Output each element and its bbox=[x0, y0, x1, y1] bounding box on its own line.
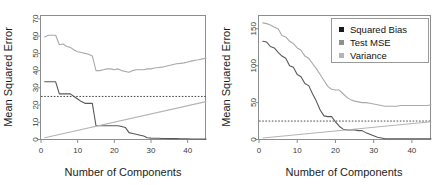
right-yaxis-title: Mean Squared Error bbox=[220, 27, 232, 127]
chart-panel-left: 010203040 010203040506070 Number of Comp… bbox=[0, 0, 218, 185]
series-line-test-mse bbox=[45, 35, 206, 72]
y-tick-label: 70 bbox=[31, 14, 40, 23]
y-tick-label: 50 bbox=[249, 98, 258, 107]
left-panel-svg: 010203040 010203040506070 Number of Comp… bbox=[0, 0, 218, 185]
x-tick-label: 30 bbox=[147, 146, 156, 155]
x-tick-label: 0 bbox=[39, 146, 44, 155]
y-tick-label: 0 bbox=[31, 137, 40, 142]
y-tick-label: 50 bbox=[31, 48, 40, 57]
left-series-group bbox=[41, 35, 206, 139]
x-tick-label: 20 bbox=[331, 146, 340, 155]
legend-label-test-mse: Test MSE bbox=[350, 37, 391, 48]
y-tick-label: 30 bbox=[31, 83, 40, 92]
y-tick-label: 60 bbox=[31, 31, 40, 40]
y-tick-label: 0 bbox=[249, 137, 258, 142]
y-tick-label: 20 bbox=[31, 100, 40, 109]
x-tick-label: 0 bbox=[257, 146, 262, 155]
bias-variance-figure: 010203040 010203040506070 Number of Comp… bbox=[0, 0, 437, 185]
left-plot-frame bbox=[41, 16, 206, 140]
x-tick-label: 10 bbox=[293, 146, 302, 155]
legend-marker-test-mse bbox=[339, 40, 344, 45]
left-yaxis-title: Mean Squared Error bbox=[2, 27, 14, 127]
right-panel-svg: 010203040 050100150 Squared BiasTest MSE… bbox=[218, 0, 437, 185]
chart-legend: Squared BiasTest MSEVariance bbox=[332, 19, 429, 63]
y-tick-label: 150 bbox=[249, 22, 258, 36]
x-tick-label: 30 bbox=[369, 146, 378, 155]
chart-panel-right: 010203040 050100150 Squared BiasTest MSE… bbox=[218, 0, 437, 185]
series-line-variance bbox=[263, 122, 431, 138]
legend-marker-squared-bias bbox=[339, 27, 344, 32]
y-tick-label: 10 bbox=[31, 117, 40, 126]
legend-marker-variance bbox=[339, 53, 344, 58]
right-x-ticks: 010203040 bbox=[257, 140, 417, 155]
x-tick-label: 10 bbox=[73, 146, 82, 155]
y-tick-label: 40 bbox=[31, 66, 40, 75]
left-y-ticks: 010203040506070 bbox=[31, 14, 41, 142]
left-x-ticks: 010203040 bbox=[39, 140, 193, 155]
right-y-ticks: 050100150 bbox=[249, 22, 259, 142]
series-line-squared-bias bbox=[45, 82, 206, 139]
legend-label-variance: Variance bbox=[350, 50, 387, 61]
right-xaxis-title: Number of Components bbox=[286, 166, 403, 178]
series-line-variance bbox=[45, 102, 206, 138]
y-tick-label: 100 bbox=[249, 58, 258, 72]
x-tick-label: 20 bbox=[110, 146, 119, 155]
legend-label-squared-bias: Squared Bias bbox=[350, 24, 407, 35]
x-tick-label: 40 bbox=[407, 146, 416, 155]
x-tick-label: 40 bbox=[183, 146, 192, 155]
left-xaxis-title: Number of Components bbox=[65, 166, 182, 178]
